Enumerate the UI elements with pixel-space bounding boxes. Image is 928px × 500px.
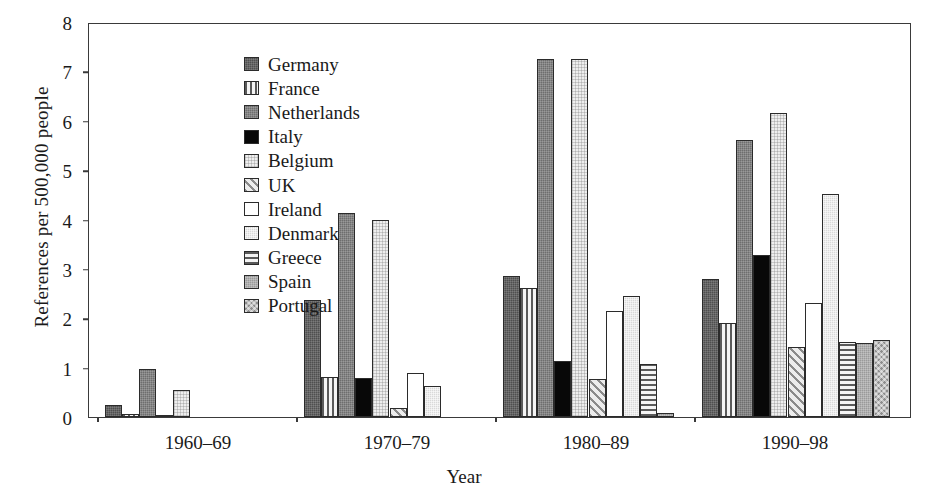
bar-ireland-1990-98 — [805, 303, 822, 417]
x-tick-mark — [97, 417, 99, 422]
legend-label: Denmark — [268, 224, 339, 243]
bar-denmark-1990-98 — [822, 194, 839, 417]
legend-item-portugal: Portugal — [244, 294, 414, 318]
bar-belgium-1990-98 — [770, 113, 787, 417]
bar-belgium-1960-69 — [173, 390, 190, 417]
bar-belgium-1980-89 — [571, 59, 588, 417]
legend-item-greece: Greece — [244, 246, 414, 270]
legend-swatch-netherlands — [244, 105, 259, 119]
legend-item-spain: Spain — [244, 270, 414, 294]
bar-spain-1980-89 — [657, 413, 674, 417]
legend-label: Germany — [268, 55, 339, 74]
bar-italy-1960-69 — [156, 415, 173, 417]
bar-portugal-1990-98 — [873, 340, 890, 417]
bar-germany-1960-69 — [105, 405, 122, 417]
x-tick-label-1980-89: 1980–89 — [563, 432, 630, 454]
y-tick-label-5: 5 — [42, 162, 72, 181]
bar-ireland-1970-79 — [407, 373, 424, 417]
y-tick-label-6: 6 — [42, 112, 72, 131]
legend-item-netherlands: Netherlands — [244, 100, 414, 124]
bar-netherlands-1960-69 — [139, 369, 156, 417]
bar-italy-1990-98 — [753, 255, 770, 417]
legend-swatch-italy — [244, 130, 259, 144]
legend-label: Greece — [268, 248, 322, 267]
bar-france-1980-89 — [520, 288, 537, 417]
legend-swatch-greece — [244, 251, 259, 265]
bar-uk-1990-98 — [788, 347, 805, 417]
bar-netherlands-1980-89 — [537, 59, 554, 417]
legend-item-uk: UK — [244, 173, 414, 197]
legend-swatch-france — [244, 81, 259, 95]
legend-swatch-denmark — [244, 226, 259, 240]
y-tick-label-8: 8 — [42, 14, 72, 33]
legend-label: Netherlands — [268, 103, 360, 122]
bar-italy-1970-79 — [355, 378, 372, 418]
x-tick-mark — [495, 417, 497, 422]
legend-label: France — [268, 79, 320, 98]
x-tick-mark — [694, 417, 696, 422]
bar-italy-1980-89 — [554, 361, 571, 417]
bar-france-1970-79 — [321, 377, 338, 417]
plot-area: GermanyFranceNetherlandsItalyBelgiumUKIr… — [88, 23, 911, 418]
x-tick-label-1990-98: 1990–98 — [762, 432, 829, 454]
legend-swatch-uk — [244, 178, 259, 192]
legend-label: Portugal — [268, 296, 332, 315]
y-tick-label-3: 3 — [42, 260, 72, 279]
bar-france-1990-98 — [719, 323, 736, 417]
bar-germany-1990-98 — [702, 279, 719, 417]
legend-label: Italy — [268, 127, 303, 146]
bar-netherlands-1990-98 — [736, 140, 753, 417]
y-tick-label-0: 0 — [42, 409, 72, 428]
legend-label: Spain — [268, 272, 311, 291]
legend-item-ireland: Ireland — [244, 197, 414, 221]
x-tick-label-1970-79: 1970–79 — [364, 432, 431, 454]
bar-denmark-1980-89 — [623, 296, 640, 417]
legend-label: Ireland — [268, 200, 322, 219]
legend-item-france: France — [244, 76, 414, 100]
bar-greece-1980-89 — [640, 364, 657, 417]
x-tick-label-1960-69: 1960–69 — [165, 432, 232, 454]
legend-item-italy: Italy — [244, 125, 414, 149]
legend-item-belgium: Belgium — [244, 149, 414, 173]
legend-item-germany: Germany — [244, 52, 414, 76]
legend-label: Belgium — [268, 151, 333, 170]
legend-item-denmark: Denmark — [244, 221, 414, 245]
legend-label: UK — [268, 176, 295, 195]
legend: GermanyFranceNetherlandsItalyBelgiumUKIr… — [244, 52, 414, 318]
bar-denmark-1970-79 — [424, 386, 441, 417]
bar-chart-figure: References per 500,000 people 012345678 … — [0, 0, 928, 500]
legend-swatch-spain — [244, 275, 259, 289]
legend-swatch-portugal — [244, 299, 259, 313]
bar-france-1960-69 — [122, 414, 139, 417]
legend-swatch-germany — [244, 57, 259, 71]
bars-layer — [89, 24, 910, 417]
y-tick-label-2: 2 — [42, 310, 72, 329]
legend-swatch-ireland — [244, 202, 259, 216]
legend-swatch-belgium — [244, 154, 259, 168]
bar-germany-1980-89 — [503, 276, 520, 417]
y-tick-label-1: 1 — [42, 359, 72, 378]
x-tick-mark — [296, 417, 298, 422]
bar-uk-1980-89 — [589, 379, 606, 418]
x-axis-title: Year — [0, 466, 928, 488]
bar-greece-1990-98 — [839, 342, 856, 417]
y-tick-label-7: 7 — [42, 63, 72, 82]
bar-uk-1970-79 — [390, 408, 407, 417]
bar-ireland-1980-89 — [606, 311, 623, 417]
bar-spain-1990-98 — [856, 343, 873, 417]
y-tick-label-4: 4 — [42, 211, 72, 230]
